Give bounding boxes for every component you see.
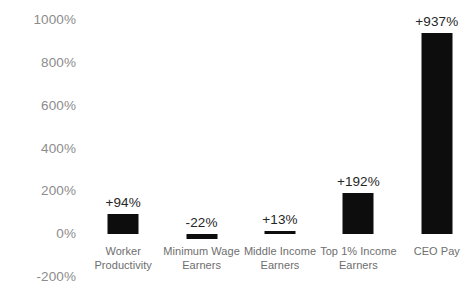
bar-value-label: +94% <box>106 196 141 210</box>
bar-chart: 1000%800%600%400%200%0%-200% +94%WorkerP… <box>0 0 476 297</box>
bar[interactable] <box>421 33 452 234</box>
bar-value-label: +937% <box>415 15 458 29</box>
bar-group: +937%CEO Pay <box>398 0 476 297</box>
category-label-line-1: Middle Income <box>244 245 316 257</box>
bar[interactable] <box>108 214 139 234</box>
y-axis-tick-label: 1000% <box>0 13 76 27</box>
category-label-line-2: Earners <box>244 259 316 273</box>
y-axis-tick-label: 200% <box>0 184 76 198</box>
y-axis-tick-label: 800% <box>0 56 76 70</box>
bar[interactable] <box>343 193 374 234</box>
y-axis-tick-label: 400% <box>0 142 76 156</box>
x-axis-category-label: Top 1% IncomeEarners <box>320 245 396 273</box>
category-label-line-2: Earners <box>163 259 240 273</box>
category-label-line-2: Productivity <box>94 259 151 273</box>
plot-area: +94%WorkerProductivity-22%Minimum WageEa… <box>84 0 476 297</box>
bar-group: +13%Middle IncomeEarners <box>241 0 319 297</box>
x-axis-category-label: Minimum WageEarners <box>163 245 240 273</box>
bar[interactable] <box>264 231 295 234</box>
bar-value-label: -22% <box>186 216 218 230</box>
x-axis-category-label: CEO Pay <box>414 245 460 259</box>
bar-group: +192%Top 1% IncomeEarners <box>319 0 397 297</box>
category-label-line-1: Worker <box>105 245 141 257</box>
x-axis-category-label: Middle IncomeEarners <box>244 245 316 273</box>
category-label-line-2: Earners <box>320 259 396 273</box>
bar-value-label: +13% <box>262 213 297 227</box>
bar[interactable] <box>186 234 217 239</box>
x-axis-category-label: WorkerProductivity <box>94 245 151 273</box>
y-axis: 1000%800%600%400%200%0%-200% <box>0 0 76 297</box>
bar-value-label: +192% <box>337 175 380 189</box>
category-label-line-1: Minimum Wage <box>163 245 240 257</box>
y-axis-tick-label: 0% <box>0 227 76 241</box>
bar-group: +94%WorkerProductivity <box>84 0 162 297</box>
y-axis-tick-label: 600% <box>0 99 76 113</box>
category-label-line-1: Top 1% Income <box>320 245 396 257</box>
y-axis-tick-label: -200% <box>0 270 76 284</box>
category-label-line-1: CEO Pay <box>414 245 460 257</box>
bar-group: -22%Minimum WageEarners <box>162 0 240 297</box>
